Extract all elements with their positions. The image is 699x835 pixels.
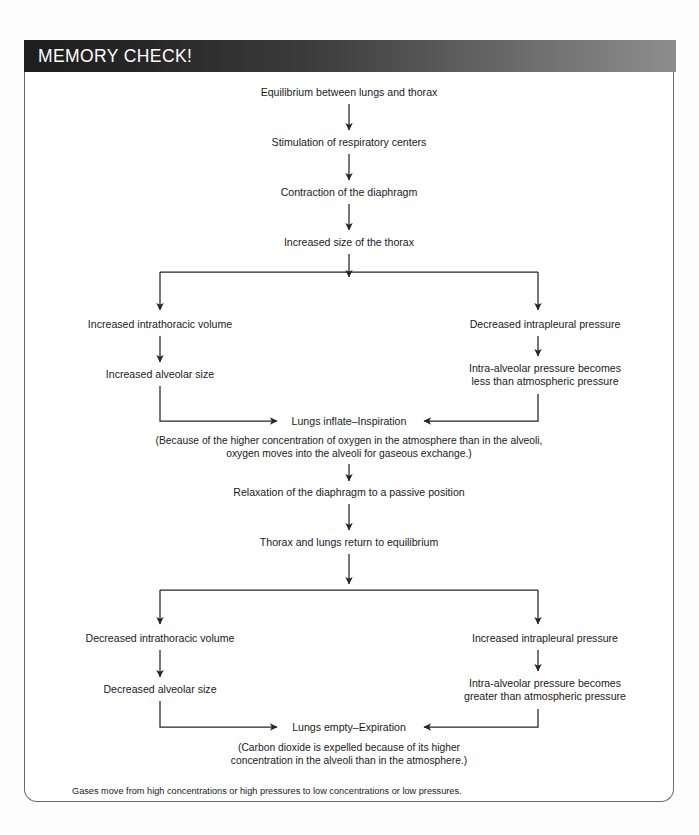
note-labels: (Because of the higher concentration of … xyxy=(156,435,543,766)
node-thorax-lungs-equilibrium: Thorax and lungs return to equilibrium xyxy=(260,536,439,548)
node-intraalveolar-less-line2: less than atmospheric pressure xyxy=(471,375,618,387)
note-inspiration-line2: oxygen moves into the alveoli for gaseou… xyxy=(226,448,472,459)
note-expiration-line2: concentration in the alveoli than in the… xyxy=(231,755,467,766)
card-header-bar: MEMORY CHECK! xyxy=(24,40,676,72)
node-intraalveolar-greater-line1: Intra-alveolar pressure becomes xyxy=(469,677,621,689)
node-relaxation-diaphragm: Relaxation of the diaphragm to a passive… xyxy=(233,486,465,498)
node-increased-alveolar-size: Increased alveolar size xyxy=(106,368,214,380)
node-contraction-diaphragm: Contraction of the diaphragm xyxy=(281,186,418,198)
node-decreased-intrathoracic: Decreased intrathoracic volume xyxy=(86,632,235,644)
node-stimulation-respiratory: Stimulation of respiratory centers xyxy=(272,136,427,148)
node-decreased-intrapleural: Decreased intrapleural pressure xyxy=(470,318,621,330)
node-lungs-empty-expiration: Lungs empty–Expiration xyxy=(292,721,406,733)
node-lungs-inflate-inspiration: Lungs inflate–Inspiration xyxy=(292,415,407,427)
edge-n7-n9 xyxy=(160,386,277,421)
edge-n8-n9 xyxy=(424,394,538,421)
note-expiration-line1: (Carbon dioxide is expelled because of i… xyxy=(238,742,461,753)
edge-n16-n17 xyxy=(424,709,538,727)
page-root: MEMORY CHECK! xyxy=(0,0,699,835)
footer-note: Gases move from high concentrations or h… xyxy=(72,786,462,796)
node-intraalveolar-greater-line2: greater than atmospheric pressure xyxy=(464,690,626,702)
node-intraalveolar-less-line1: Intra-alveolar pressure becomes xyxy=(469,362,621,374)
respiration-flowchart: Equilibrium between lungs and thorax Sti… xyxy=(24,72,674,802)
node-decreased-alveolar-size: Decreased alveolar size xyxy=(103,683,216,695)
node-equilibrium-lungs-thorax: Equilibrium between lungs and thorax xyxy=(261,86,438,98)
note-inspiration-line1: (Because of the higher concentration of … xyxy=(156,435,543,446)
node-increased-intrapleural: Increased intrapleural pressure xyxy=(472,632,618,644)
node-increased-intrathoracic: Increased intrathoracic volume xyxy=(88,318,232,330)
edge-n15-n17 xyxy=(160,701,277,727)
flowchart-svg: Equilibrium between lungs and thorax Sti… xyxy=(24,72,674,802)
card-header-title: MEMORY CHECK! xyxy=(24,46,192,67)
node-labels: Equilibrium between lungs and thorax Sti… xyxy=(86,86,627,733)
node-increased-size-thorax: Increased size of the thorax xyxy=(284,236,415,248)
